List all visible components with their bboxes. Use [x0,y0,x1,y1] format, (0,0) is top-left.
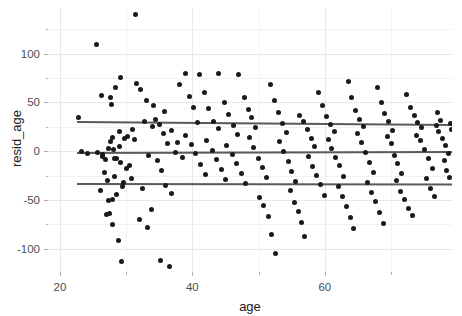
data-point [183,71,188,76]
x-axis-minor-tick [391,272,392,275]
data-point [146,153,151,158]
data-point [133,12,138,17]
data-point [349,95,354,100]
data-point [351,226,356,231]
data-point [239,171,244,176]
data-point [341,174,346,179]
data-point [193,151,198,156]
data-point [95,150,100,155]
data-point [412,113,417,118]
data-point [288,188,293,193]
data-point [314,173,319,178]
data-point [306,154,311,159]
y-axis-tick [44,249,48,250]
data-point [134,81,139,86]
y-axis-tick [44,102,48,103]
data-point [355,131,360,136]
data-point [443,143,448,148]
data-point [144,98,149,103]
data-point [109,102,114,107]
data-point [296,209,301,214]
data-point [85,151,90,156]
data-point [302,234,307,239]
data-point [266,214,271,219]
data-point [99,93,104,98]
data-point [236,72,241,77]
data-point [402,197,407,202]
data-point [449,127,452,132]
data-point [226,112,231,117]
x-axis-tick-label: 60 [318,281,331,293]
data-point [138,87,143,92]
data-point [371,170,376,175]
data-point [442,158,447,163]
data-point [121,180,126,185]
data-point [98,188,103,193]
y-axis-minor-tick [46,78,49,79]
data-point [175,140,180,145]
data-point [110,197,115,202]
data-point [428,186,433,191]
data-point [183,133,188,138]
x-axis-tick [192,272,193,276]
gridline-major-vertical [60,8,61,272]
x-axis-tick [325,272,326,276]
data-point [272,98,277,103]
data-point [119,259,124,264]
data-point [410,213,415,218]
data-point [344,204,349,209]
data-point [359,140,364,145]
y-axis-minor-tick [46,29,49,30]
data-point [424,176,429,181]
data-point [198,162,203,167]
y-axis-minor-tick [46,176,49,177]
data-point [269,232,274,237]
gridline-major-horizontal [48,54,452,55]
data-point [447,175,452,180]
data-point [129,176,134,181]
data-point [246,107,251,112]
data-point [419,125,424,130]
data-point [219,167,224,172]
data-point [340,194,345,199]
data-point [329,146,334,151]
data-point [414,133,419,138]
data-point [162,109,167,114]
data-point [159,168,164,173]
data-point [394,178,399,183]
data-point [268,82,273,87]
data-point [110,135,115,140]
y-axis-tick-label: -50 [23,194,40,206]
data-point [117,144,122,149]
data-point [76,115,81,120]
data-point [367,160,372,165]
y-axis-tick [44,54,48,55]
data-point [440,136,445,141]
data-point [256,156,261,161]
data-point [177,82,182,87]
data-point [149,207,154,212]
data-point [206,106,211,111]
data-point [432,194,437,199]
data-point [216,71,221,76]
data-point [406,206,411,211]
y-axis-tick-label: -100 [17,243,40,255]
data-point [390,128,395,133]
data-point [273,251,278,256]
y-axis-minor-tick [46,127,49,128]
data-point [111,147,116,152]
data-point [264,175,269,180]
data-point [235,132,240,137]
y-axis-tick-label: 100 [21,48,40,60]
data-point [377,210,382,215]
data-point [187,94,192,99]
data-point [312,144,317,149]
data-point [422,147,427,152]
data-point [117,129,122,134]
data-point [395,161,400,166]
x-axis-minor-tick [259,272,260,275]
data-point [247,135,252,140]
data-point [222,100,227,105]
data-point [127,163,132,168]
data-point [435,110,440,115]
